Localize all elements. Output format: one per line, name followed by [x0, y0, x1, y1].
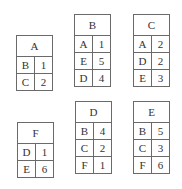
- edge-row: F 6: [134, 157, 169, 173]
- adjacency-table-a: A B 1 C 2: [16, 35, 53, 91]
- edge-row: C 3: [134, 140, 169, 157]
- weight-cell: 4: [94, 123, 111, 139]
- weight-cell: 3: [152, 140, 169, 156]
- weight-cell: 1: [93, 36, 110, 52]
- adjacency-table-e: E B 5 C 3 F 6: [133, 101, 170, 174]
- weight-cell: 1: [94, 157, 111, 173]
- neighbor-cell: B: [134, 123, 152, 139]
- edge-row: A 1: [75, 36, 110, 53]
- edge-row: B 5: [134, 123, 169, 140]
- adjacency-table-c: C A 2 D 2 E 3: [133, 14, 170, 87]
- weight-cell: 4: [93, 70, 110, 86]
- edge-row: D 2: [134, 53, 169, 70]
- node-header: A: [17, 36, 52, 57]
- neighbor-cell: E: [75, 53, 93, 69]
- adjacency-table-f: F D 1 E 6: [17, 122, 54, 178]
- neighbor-cell: D: [18, 144, 36, 160]
- edge-row: B 1: [17, 57, 52, 74]
- edge-row: E 5: [75, 53, 110, 70]
- weight-cell: 2: [94, 140, 111, 156]
- node-header: D: [76, 102, 111, 123]
- weight-cell: 1: [35, 57, 52, 73]
- weight-cell: 3: [152, 70, 169, 86]
- weight-cell: 5: [152, 123, 169, 139]
- weight-cell: 1: [36, 144, 53, 160]
- weight-cell: 2: [152, 36, 169, 52]
- neighbor-cell: C: [17, 74, 35, 90]
- edge-row: E 6: [18, 161, 53, 177]
- neighbor-cell: E: [18, 161, 36, 177]
- neighbor-cell: B: [76, 123, 94, 139]
- edge-row: D 4: [75, 70, 110, 86]
- edge-row: E 3: [134, 70, 169, 86]
- adjacency-table-b: B A 1 E 5 D 4: [74, 14, 111, 87]
- node-header: F: [18, 123, 53, 144]
- weight-cell: 5: [93, 53, 110, 69]
- neighbor-cell: A: [134, 36, 152, 52]
- neighbor-cell: D: [134, 53, 152, 69]
- edge-row: A 2: [134, 36, 169, 53]
- node-header: E: [134, 102, 169, 123]
- adjacency-table-d: D B 4 C 2 F 1: [75, 101, 112, 174]
- weight-cell: 6: [36, 161, 53, 177]
- neighbor-cell: B: [17, 57, 35, 73]
- edge-row: B 4: [76, 123, 111, 140]
- edge-row: C 2: [17, 74, 52, 90]
- weight-cell: 2: [152, 53, 169, 69]
- neighbor-cell: F: [134, 157, 152, 173]
- edge-row: D 1: [18, 144, 53, 161]
- weight-cell: 2: [35, 74, 52, 90]
- node-header: C: [134, 15, 169, 36]
- weight-cell: 6: [152, 157, 169, 173]
- neighbor-cell: C: [76, 140, 94, 156]
- neighbor-cell: C: [134, 140, 152, 156]
- node-header: B: [75, 15, 110, 36]
- edge-row: F 1: [76, 157, 111, 173]
- neighbor-cell: F: [76, 157, 94, 173]
- neighbor-cell: D: [75, 70, 93, 86]
- neighbor-cell: A: [75, 36, 93, 52]
- edge-row: C 2: [76, 140, 111, 157]
- neighbor-cell: E: [134, 70, 152, 86]
